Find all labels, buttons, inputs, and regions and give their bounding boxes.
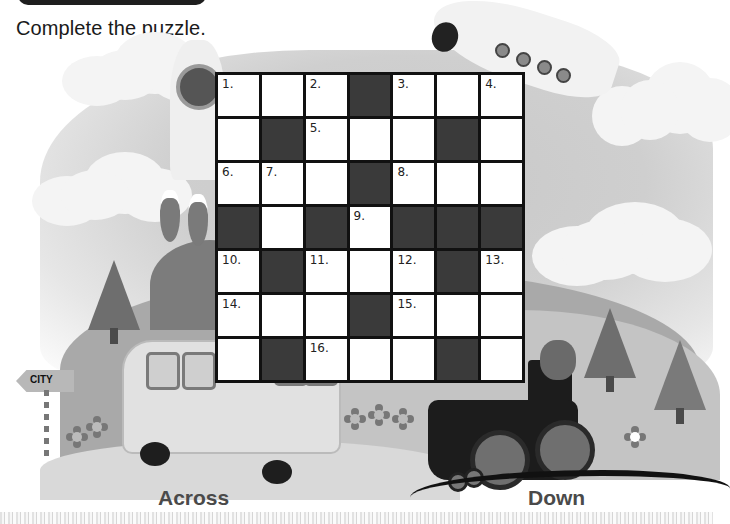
clue-number: 14.	[222, 297, 241, 311]
crossword-black-cell	[437, 207, 478, 248]
crossword-black-cell	[437, 339, 478, 380]
crossword-cell[interactable]: 13.	[481, 251, 522, 292]
clue-number: 8.	[397, 165, 408, 179]
crossword-black-cell	[350, 163, 391, 204]
crossword-grid: 1.2.3.4.5.6.7.8.9.10.11.12.13.14.15.16.	[215, 72, 525, 383]
airplane-window	[516, 52, 531, 67]
crossword-black-cell	[262, 339, 303, 380]
crossword-cell[interactable]	[481, 295, 522, 336]
clue-number: 16.	[310, 341, 329, 355]
crossword-cell[interactable]	[218, 119, 259, 160]
flower-icon	[350, 414, 360, 424]
flower-icon	[92, 422, 102, 432]
crossword-cell[interactable]: 5.	[306, 119, 347, 160]
tree-trunk	[606, 376, 614, 392]
crossword-black-cell	[350, 295, 391, 336]
cloud-icon	[560, 220, 650, 280]
clue-number: 3.	[397, 77, 408, 91]
crossword-cell[interactable]	[481, 163, 522, 204]
rocket-thruster	[160, 190, 180, 242]
crossword-black-cell	[437, 119, 478, 160]
rocket-thruster	[188, 194, 208, 246]
crossword-cell[interactable]	[350, 119, 391, 160]
clue-number: 5.	[310, 121, 321, 135]
crossword-cell[interactable]	[437, 75, 478, 116]
crossword-cell[interactable]: 14.	[218, 295, 259, 336]
pine-tree-icon	[88, 260, 140, 330]
crossword-cell[interactable]	[306, 295, 347, 336]
bus-window	[146, 352, 180, 390]
tree-trunk	[676, 408, 684, 424]
crossword-cell[interactable]: 15.	[393, 295, 434, 336]
crossword-cell[interactable]: 7.	[262, 163, 303, 204]
crossword-cell[interactable]	[262, 75, 303, 116]
crossword-black-cell	[393, 207, 434, 248]
clue-number: 10.	[222, 253, 241, 267]
pine-tree-icon	[654, 340, 706, 410]
crossword-cell[interactable]	[437, 163, 478, 204]
crossword-cell[interactable]: 16.	[306, 339, 347, 380]
clue-number: 7.	[266, 165, 277, 179]
clue-number: 15.	[397, 297, 416, 311]
clue-number: 9.	[354, 209, 365, 223]
clue-number: 6.	[222, 165, 233, 179]
crossword-black-cell	[350, 75, 391, 116]
crossword-cell[interactable]	[481, 119, 522, 160]
crossword-black-cell	[262, 119, 303, 160]
crossword-cell[interactable]: 6.	[218, 163, 259, 204]
crossword-cell[interactable]: 12.	[393, 251, 434, 292]
bottom-edge	[0, 512, 713, 524]
crossword-cell[interactable]	[393, 119, 434, 160]
clue-number: 4.	[485, 77, 496, 91]
flower-icon	[374, 410, 384, 420]
crossword-cell[interactable]: 1.	[218, 75, 259, 116]
crossword-black-cell	[306, 207, 347, 248]
bus-wheel	[262, 460, 292, 484]
across-heading: Across	[158, 486, 229, 510]
pine-tree-icon	[584, 308, 636, 378]
crossword-cell[interactable]	[437, 295, 478, 336]
crossword-black-cell	[218, 207, 259, 248]
tree-trunk	[110, 328, 118, 344]
crossword-cell[interactable]: 10.	[218, 251, 259, 292]
crossword-cell[interactable]: 3.	[393, 75, 434, 116]
crossword-cell[interactable]: 11.	[306, 251, 347, 292]
crossword-cell[interactable]	[218, 339, 259, 380]
crossword-black-cell	[481, 207, 522, 248]
clue-number: 12.	[397, 253, 416, 267]
down-heading: Down	[528, 486, 585, 510]
flower-icon	[72, 432, 82, 442]
airplane-window	[556, 68, 571, 83]
flower-icon	[398, 414, 408, 424]
instruction-text: Complete the puzzle.	[16, 17, 206, 40]
crossword-cell[interactable]	[306, 163, 347, 204]
clue-number: 11.	[310, 253, 329, 267]
bus-window	[182, 352, 216, 390]
bear-driver	[540, 340, 576, 380]
crossword-cell[interactable]	[262, 207, 303, 248]
airplane-window	[537, 60, 552, 75]
clue-number: 13.	[485, 253, 504, 267]
crossword-cell[interactable]	[262, 295, 303, 336]
cloud-icon	[620, 80, 680, 140]
crossword-cell[interactable]	[350, 251, 391, 292]
crossword-cell[interactable]	[350, 339, 391, 380]
header-bar	[18, 0, 206, 5]
cloud-icon	[90, 50, 160, 100]
crossword-cell[interactable]: 9.	[350, 207, 391, 248]
crossword-cell[interactable]	[481, 339, 522, 380]
flower-icon	[630, 432, 640, 442]
crossword-cell[interactable]	[393, 339, 434, 380]
cloud-icon	[60, 170, 130, 220]
airplane-window	[495, 43, 510, 58]
crossword-black-cell	[262, 251, 303, 292]
clue-number: 1.	[222, 77, 233, 91]
crossword-cell[interactable]: 4.	[481, 75, 522, 116]
crossword-cell[interactable]: 2.	[306, 75, 347, 116]
sign-post	[44, 390, 49, 460]
sign-text: CITY	[30, 374, 53, 385]
clue-number: 2.	[310, 77, 321, 91]
bus-wheel	[140, 442, 170, 466]
crossword-cell[interactable]: 8.	[393, 163, 434, 204]
crossword-black-cell	[437, 251, 478, 292]
